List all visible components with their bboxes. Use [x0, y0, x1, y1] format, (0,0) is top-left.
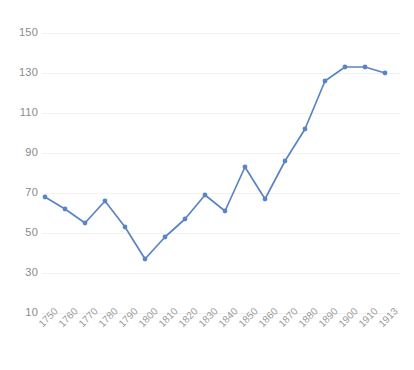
plot-area: 1501301109070503010 17501760177017801790…: [0, 0, 414, 370]
data-point-1830: [203, 193, 208, 198]
data-point-1870: [283, 159, 288, 164]
data-point-1780: [103, 199, 108, 204]
data-point-1890: [323, 79, 328, 84]
data-point-1760: [63, 207, 68, 212]
data-point-1790: [123, 225, 128, 230]
data-point-1880: [303, 127, 308, 132]
data-point-1913: [383, 71, 388, 76]
data-point-1820: [183, 217, 188, 222]
data-point-1750: [43, 195, 48, 200]
data-point-1810: [163, 235, 168, 240]
series-markers-group: [43, 65, 388, 262]
data-point-1910: [363, 65, 368, 70]
data-point-1860: [263, 197, 268, 202]
data-point-1800: [143, 257, 148, 262]
data-point-1770: [83, 221, 88, 226]
data-point-1850: [243, 165, 248, 170]
data-point-1840: [223, 209, 228, 214]
chart-container: 1501301109070503010 17501760177017801790…: [0, 0, 414, 370]
data-point-1900: [343, 65, 348, 70]
series-line: [45, 67, 385, 259]
